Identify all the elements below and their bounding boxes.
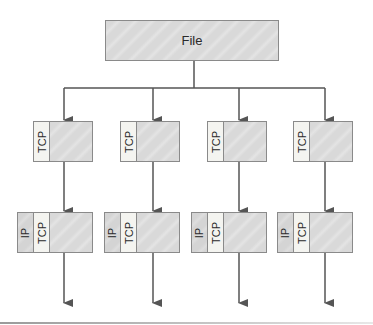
tcp-segment-1: TCP (33, 121, 93, 162)
tcp-segment-3: TCP (207, 121, 267, 162)
ip-header: IP (18, 213, 34, 252)
tcp-segment-4: TCP (293, 121, 353, 162)
tcp-header: TCP (34, 213, 50, 252)
tcp-header: TCP (294, 213, 310, 252)
tcp-header: TCP (34, 122, 50, 161)
file-box: File (105, 20, 279, 61)
tcp-header: TCP (208, 122, 224, 161)
tcp-header: TCP (121, 213, 137, 252)
ip-packet-3: IP TCP (191, 212, 267, 253)
ip-header: IP (105, 213, 121, 252)
file-label: File (182, 33, 203, 48)
ip-packet-4: IP TCP (277, 212, 353, 253)
bottom-divider (0, 322, 373, 324)
tcp-header: TCP (121, 122, 137, 161)
tcp-header: TCP (294, 122, 310, 161)
ip-packet-1: IP TCP (17, 212, 93, 253)
ip-header: IP (192, 213, 208, 252)
tcp-header: TCP (208, 213, 224, 252)
tcp-segment-2: TCP (120, 121, 180, 162)
ip-packet-2: IP TCP (104, 212, 180, 253)
ip-header: IP (278, 213, 294, 252)
